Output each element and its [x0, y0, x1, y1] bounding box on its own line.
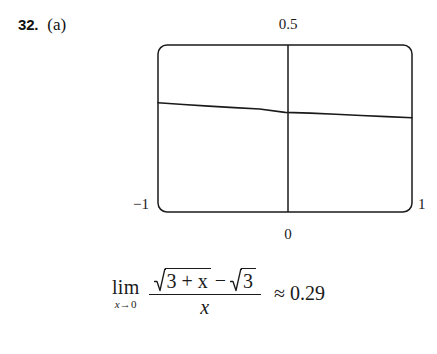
axis-label-left: −1 [133, 197, 152, 212]
numerator-minus-operator: − [211, 269, 230, 292]
approximation: ≈ 0.29 [274, 282, 325, 305]
limit-word: lim [112, 277, 140, 297]
fraction-denominator: x [195, 295, 214, 319]
radicand-3: 3 [241, 268, 256, 293]
limit-operator: lim x→0 [112, 277, 140, 310]
formula-region: lim x→0 3 + x − [0, 268, 437, 354]
axis-label-right: 1 [418, 197, 426, 212]
approx-symbol: ≈ [274, 282, 285, 305]
graph-region: 0.5 −1 1 0 [0, 0, 437, 250]
exercise-page: 32. (a) 0.5 −1 1 0 lim x→0 [0, 0, 437, 354]
limit-subscript: x→0 [115, 299, 137, 310]
plot-frame [158, 45, 412, 212]
radical-sqrt-3: 3 [230, 268, 256, 293]
axis-label-top: 0.5 [279, 17, 298, 32]
limit-formula: lim x→0 3 + x − [112, 268, 325, 319]
radical-sqrt-3-plus-x: 3 + x [154, 268, 211, 293]
limit-subscript-arrow: → [120, 298, 131, 310]
fraction-numerator: 3 + x − 3 [149, 268, 262, 294]
limit-fraction: 3 + x − 3 x [149, 268, 262, 319]
limit-subscript-target: 0 [131, 298, 137, 310]
radicand-3-plus-x: 3 + x [165, 268, 211, 293]
calculator-graph-svg [0, 0, 437, 250]
axis-label-bottom: 0 [284, 227, 292, 242]
approx-value: 0.29 [290, 282, 325, 305]
